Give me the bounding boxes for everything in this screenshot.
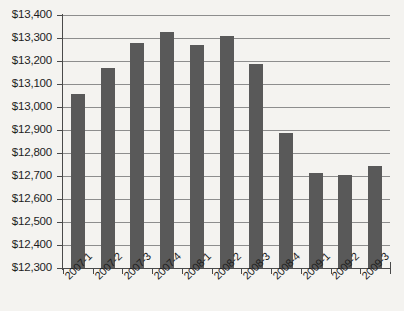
y-axis-tick-mark — [57, 245, 63, 246]
bar — [220, 36, 234, 268]
plot-area — [63, 15, 390, 268]
bar — [101, 68, 115, 268]
y-axis-tick-label: $13,400 — [12, 9, 52, 21]
y-axis-tick-mark — [57, 84, 63, 85]
y-axis-tick-mark — [57, 15, 63, 16]
y-axis-tick-label: $12,700 — [12, 170, 52, 182]
y-axis-tick-mark — [57, 107, 63, 108]
bar — [190, 45, 204, 268]
y-axis-tick-label: $12,300 — [12, 262, 52, 274]
y-axis-tick-mark — [57, 199, 63, 200]
y-axis-tick-mark — [57, 222, 63, 223]
y-axis-tick-label: $13,200 — [12, 55, 52, 67]
x-axis-tick-mark — [390, 269, 391, 274]
y-axis-tick-label: $12,900 — [12, 124, 52, 136]
y-axis-tick-label: $12,800 — [12, 147, 52, 159]
y-axis-tick-label: $12,500 — [12, 216, 52, 228]
y-axis-tick-mark — [57, 153, 63, 154]
gridline — [63, 15, 390, 16]
bar — [130, 43, 144, 268]
y-axis-tick-label: $13,300 — [12, 32, 52, 44]
bar-chart: $13,400$13,300$13,200$13,100$13,000$12,9… — [0, 0, 404, 311]
y-axis-tick-label: $13,000 — [12, 101, 52, 113]
x-axis-right-cap — [390, 262, 391, 269]
y-axis-line — [62, 14, 63, 270]
y-axis-tick-mark — [57, 61, 63, 62]
y-axis-tick-mark — [57, 130, 63, 131]
y-axis-tick-label: $13,100 — [12, 78, 52, 90]
bar — [279, 133, 293, 268]
y-axis-tick-mark — [57, 176, 63, 177]
y-axis-tick-label: $12,400 — [12, 239, 52, 251]
bar — [71, 94, 85, 268]
bar — [160, 32, 174, 268]
y-axis-tick-mark — [57, 38, 63, 39]
bar — [249, 64, 263, 268]
y-axis-tick-label: $12,600 — [12, 193, 52, 205]
